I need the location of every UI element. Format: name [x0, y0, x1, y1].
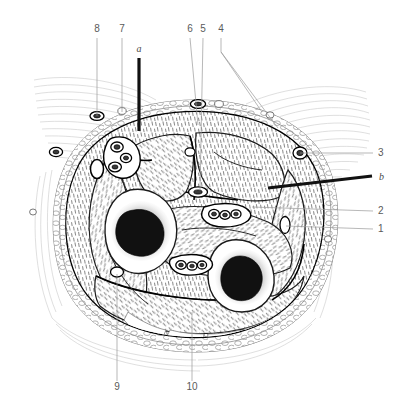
- vessel-pair-midline: [189, 187, 208, 197]
- label-7: 7: [119, 23, 125, 34]
- vessel-medial-saphenous: [91, 160, 104, 179]
- neurovascular-bundle-upper-medial: [104, 137, 141, 178]
- label-8: 8: [94, 23, 100, 34]
- label-5: 5: [200, 23, 206, 34]
- anatomical-plate: 8 7 a 6 5 4 3 b 2 1 9 10: [0, 0, 400, 416]
- label-6: 6: [187, 23, 193, 34]
- vessel-small-anterior: [185, 148, 195, 156]
- neurovascular-bundle-central: [202, 204, 251, 227]
- vessel-lateral-small: [280, 217, 290, 234]
- label-10: 10: [186, 381, 198, 392]
- label-3: 3: [378, 147, 384, 158]
- bone-anterior-tibia: [105, 189, 177, 273]
- neurovascular-bundle-lower-central: [170, 255, 213, 276]
- label-1: 1: [378, 223, 384, 234]
- cross-section-figure: 8 7 a 6 5 4 3 b 2 1 9 10: [0, 0, 400, 416]
- label-a: a: [137, 43, 142, 54]
- label-b: b: [379, 171, 384, 182]
- label-4: 4: [218, 23, 224, 34]
- label-9: 9: [114, 381, 120, 392]
- label-2: 2: [378, 205, 384, 216]
